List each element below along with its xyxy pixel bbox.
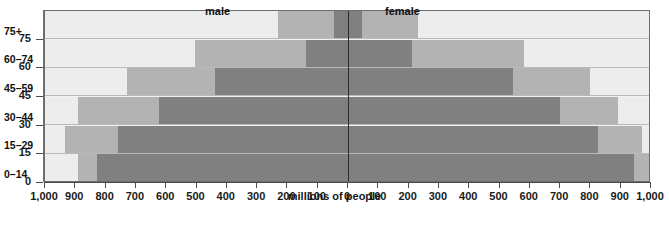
x-axis-tick bbox=[529, 182, 530, 188]
x-axis-tick bbox=[286, 182, 287, 188]
x-axis-tick-label: 800 bbox=[580, 190, 598, 202]
pyramid-row bbox=[45, 97, 649, 125]
y-axis-tick bbox=[36, 182, 43, 183]
x-axis-tick-label: 900 bbox=[65, 190, 83, 202]
plot-area bbox=[44, 10, 650, 182]
center-axis-line bbox=[348, 11, 349, 181]
bar-segment-male-dark bbox=[118, 126, 348, 153]
x-axis-tick bbox=[74, 182, 75, 188]
x-axis-tick-label: 900 bbox=[611, 190, 629, 202]
x-axis-tick bbox=[347, 182, 348, 188]
bar-segment-female-dark bbox=[348, 68, 513, 95]
series-label-female: female bbox=[385, 5, 420, 17]
x-axis-tick-label: 500 bbox=[489, 190, 507, 202]
pyramid-row bbox=[45, 68, 649, 96]
x-axis-tick-label: 600 bbox=[156, 190, 174, 202]
bar-segment-male-dark bbox=[159, 97, 348, 124]
x-axis-tick bbox=[620, 182, 621, 188]
x-axis-tick bbox=[408, 182, 409, 188]
x-axis-tick bbox=[196, 182, 197, 188]
age-band-label: 30–44 bbox=[4, 111, 33, 123]
bar-segment-female-dark bbox=[348, 154, 634, 181]
pyramid-row bbox=[45, 154, 649, 182]
x-axis-tick-label: 700 bbox=[126, 190, 144, 202]
bar-segment-male-dark bbox=[334, 11, 348, 38]
x-axis-tick bbox=[589, 182, 590, 188]
x-axis-tick-label: 100 bbox=[308, 190, 326, 202]
series-label-male: male bbox=[205, 5, 230, 17]
x-axis-tick bbox=[135, 182, 136, 188]
pyramid-row bbox=[45, 11, 649, 39]
x-axis-tick-label: 0 bbox=[344, 190, 350, 202]
age-band-label: 15–29 bbox=[4, 139, 33, 151]
x-axis-tick bbox=[559, 182, 560, 188]
x-axis-tick-label: 300 bbox=[247, 190, 265, 202]
bar-segment-male-dark bbox=[215, 68, 348, 95]
pyramid-row bbox=[45, 126, 649, 154]
x-axis-tick-label: 1,000 bbox=[636, 190, 664, 202]
bar-segment-male-dark bbox=[97, 154, 348, 181]
bar-segment-female-dark bbox=[348, 40, 412, 67]
age-band-label: 60–74 bbox=[4, 53, 33, 65]
y-axis-tick bbox=[36, 96, 43, 97]
x-axis-tick-label: 600 bbox=[520, 190, 538, 202]
y-axis-tick bbox=[36, 67, 43, 68]
x-axis-tick-label: 100 bbox=[368, 190, 386, 202]
x-axis-tick bbox=[468, 182, 469, 188]
x-axis-tick-label: 800 bbox=[95, 190, 113, 202]
x-axis-tick-label: 300 bbox=[429, 190, 447, 202]
bar-segment-male-dark bbox=[306, 40, 348, 67]
x-axis-tick-label: 200 bbox=[398, 190, 416, 202]
x-axis-tick bbox=[105, 182, 106, 188]
x-axis-tick bbox=[165, 182, 166, 188]
x-axis-tick bbox=[317, 182, 318, 188]
x-axis-tick-label: 700 bbox=[550, 190, 568, 202]
x-axis-tick-label: 1,000 bbox=[30, 190, 58, 202]
bar-segment-female-dark bbox=[348, 97, 560, 124]
x-axis-tick bbox=[44, 182, 45, 188]
x-axis-tick bbox=[438, 182, 439, 188]
age-band-label: 45–59 bbox=[4, 82, 33, 94]
age-band-label: 0–14 bbox=[4, 168, 27, 180]
y-axis-line bbox=[43, 10, 44, 182]
age-band-label: 75+ bbox=[4, 25, 22, 37]
x-axis-tick bbox=[226, 182, 227, 188]
x-axis-tick bbox=[377, 182, 378, 188]
x-axis-tick bbox=[650, 182, 651, 188]
bar-segment-female-dark bbox=[348, 11, 362, 38]
pyramid-row bbox=[45, 40, 649, 68]
x-axis-tick-label: 400 bbox=[217, 190, 235, 202]
x-axis-tick bbox=[256, 182, 257, 188]
population-pyramid-chart: age millions of people male female 0–141… bbox=[0, 0, 669, 228]
x-axis-tick-label: 200 bbox=[277, 190, 295, 202]
bar-segment-female-dark bbox=[348, 126, 598, 153]
y-axis-tick bbox=[36, 39, 43, 40]
x-axis-tick-label: 400 bbox=[459, 190, 477, 202]
x-axis-tick-label: 500 bbox=[186, 190, 204, 202]
x-axis-tick bbox=[499, 182, 500, 188]
y-axis-tick bbox=[36, 153, 43, 154]
y-axis-tick bbox=[36, 125, 43, 126]
